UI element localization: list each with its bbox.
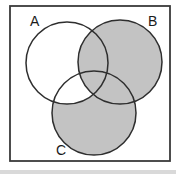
set-a-label: A (30, 13, 40, 29)
set-c-label: C (56, 142, 66, 158)
scan-edge-shadow (0, 170, 176, 174)
venn-diagram-figure: A B C (0, 0, 184, 174)
venn-diagram-canvas: A B C (0, 0, 184, 174)
set-b-label: B (148, 13, 157, 29)
